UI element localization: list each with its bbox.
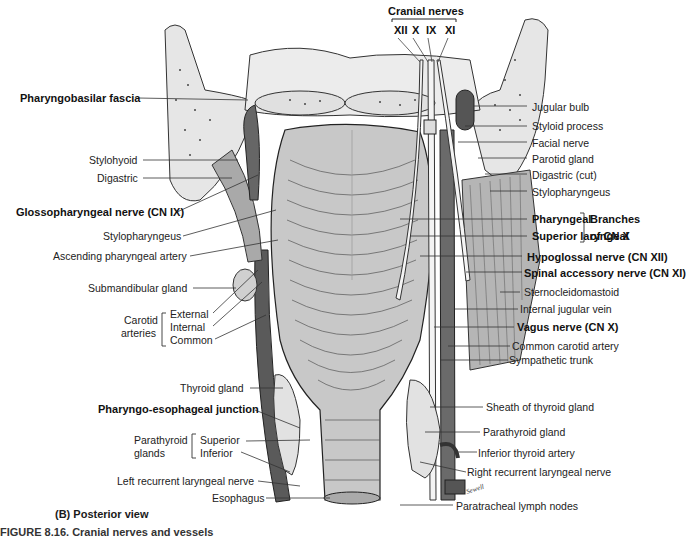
label-vagus-nerve: Vagus nerve (CN X) bbox=[517, 321, 618, 333]
label-carotid-group-line1: Carotid bbox=[124, 314, 158, 326]
label-parathyroid-superior: Superior bbox=[200, 434, 240, 446]
label-right-recurrent-laryngeal-nerve: Right recurrent laryngeal nerve bbox=[467, 466, 611, 478]
label-digastric-cut: Digastric (cut) bbox=[532, 169, 597, 181]
label-parathyroid-group-line2: glands bbox=[134, 447, 165, 459]
label-carotid-internal: Internal bbox=[170, 321, 205, 333]
label-hypoglossal-nerve: Hypoglossal nerve (CN XII) bbox=[527, 251, 668, 263]
label-paratracheal-lymph-nodes: Paratracheal lymph nodes bbox=[456, 500, 578, 512]
label-stylopharyngeus-right: Stylopharyngeus bbox=[532, 186, 610, 198]
cn-numeral-xii: XII bbox=[394, 24, 407, 36]
label-parathyroid-inferior: Inferior bbox=[200, 447, 233, 459]
submandibular-gland bbox=[233, 269, 257, 301]
label-parathyroid-gland: Parathyroid gland bbox=[483, 426, 565, 438]
cn-numeral-x: X bbox=[412, 24, 419, 36]
artist-signature: Sewell bbox=[465, 483, 485, 496]
label-branches-of-cn-x-line1: Branches bbox=[590, 213, 640, 225]
label-left-recurrent-laryngeal-nerve: Left recurrent laryngeal nerve bbox=[117, 475, 254, 487]
label-internal-jugular-vein: Internal jugular vein bbox=[520, 303, 612, 315]
label-sheath-of-thyroid-gland: Sheath of thyroid gland bbox=[486, 401, 594, 413]
label-common-carotid-artery: Common carotid artery bbox=[512, 340, 619, 352]
cn-numeral-ix: IX bbox=[426, 24, 436, 36]
label-pharyngobasilar-fascia: Pharyngobasilar fascia bbox=[20, 92, 140, 104]
label-styloid-process: Styloid process bbox=[532, 120, 603, 132]
label-sternocleidomastoid: Sternocleidomastoid bbox=[524, 286, 619, 298]
label-glossopharyngeal-nerve: Glossopharyngeal nerve (CN IX) bbox=[16, 206, 184, 218]
label-stylopharyngeus-left: Stylopharyngeus bbox=[103, 230, 181, 242]
label-carotid-external: External bbox=[170, 308, 209, 320]
label-parotid-gland: Parotid gland bbox=[532, 153, 594, 165]
label-stylohyoid: Stylohyoid bbox=[89, 154, 137, 166]
label-jugular-bulb: Jugular bulb bbox=[532, 101, 589, 113]
label-submandibular-gland: Submandibular gland bbox=[88, 282, 187, 294]
label-spinal-accessory-nerve: Spinal accessory nerve (CN XI) bbox=[524, 267, 686, 279]
jugular-bulb bbox=[456, 90, 474, 130]
label-ascending-pharyngeal-artery: Ascending pharyngeal artery bbox=[53, 250, 187, 262]
label-sympathetic-trunk: Sympathetic trunk bbox=[509, 354, 593, 366]
label-esophagus: Esophagus bbox=[212, 492, 265, 504]
label-pharyngo-esophageal-junction: Pharyngo-esophageal junction bbox=[98, 403, 259, 415]
view-label: (B) Posterior view bbox=[55, 508, 149, 520]
label-parathyroid-group-line1: Parathyroid bbox=[134, 434, 188, 446]
cn-numeral-xi: XI bbox=[445, 24, 455, 36]
label-branches-of-cn-x-line2: of CN X bbox=[590, 230, 630, 242]
label-digastric: Digastric bbox=[97, 172, 138, 184]
figure-caption-truncated: FIGURE 8.16. Cranial nerves and vessels bbox=[0, 526, 213, 538]
cranial-nerves-title: Cranial nerves bbox=[388, 5, 464, 17]
label-carotid-common: Common bbox=[170, 334, 213, 346]
label-facial-nerve: Facial nerve bbox=[532, 137, 589, 149]
label-pharyngeal-branch: Pharyngeal bbox=[532, 213, 591, 225]
label-thyroid-gland: Thyroid gland bbox=[180, 382, 244, 394]
label-carotid-group-line2: arteries bbox=[121, 327, 156, 339]
label-inferior-thyroid-artery: Inferior thyroid artery bbox=[478, 447, 575, 459]
